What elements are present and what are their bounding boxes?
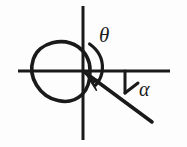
theta-symbol: θ — [99, 25, 109, 46]
alpha-angle-closing-stroke — [125, 83, 138, 93]
alpha-symbol: α — [139, 79, 150, 99]
angle-diagram-figure: θ α — [0, 0, 187, 147]
diagram-canvas — [0, 0, 187, 147]
